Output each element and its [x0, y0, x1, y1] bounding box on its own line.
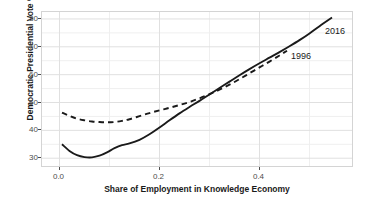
y-axis-tick-labels: 304050607080	[5, 0, 38, 201]
data-series-lines	[62, 18, 332, 158]
y-tick-mark	[38, 129, 41, 130]
y-tick-mark	[38, 46, 41, 47]
x-axis-title: Share of Employment in Knowledge Economy	[41, 184, 353, 194]
y-tick-mark	[38, 157, 41, 158]
y-tick-mark	[38, 18, 41, 19]
x-tick-label-0.2: 0.2	[139, 172, 179, 181]
series-line-2016	[62, 18, 332, 158]
y-tick-mark	[38, 102, 41, 103]
y-tick-label-80: 80	[8, 13, 38, 22]
y-tick-label-60: 60	[8, 69, 38, 78]
x-tick-label-0.4: 0.4	[239, 172, 279, 181]
y-tick-mark	[38, 74, 41, 75]
x-tick-mark	[159, 167, 160, 170]
y-tick-label-50: 50	[8, 97, 38, 106]
plot-area-svg	[42, 12, 352, 166]
y-tick-label-40: 40	[8, 125, 38, 134]
series-annotation-1996: 1996	[291, 51, 311, 61]
chart-figure: Democratic Presidential Vote % 304050607…	[0, 0, 365, 201]
x-tick-mark	[259, 167, 260, 170]
series-line-1996	[62, 51, 287, 123]
y-tick-label-70: 70	[8, 41, 38, 50]
series-annotation-2016: 2016	[325, 26, 345, 36]
x-tick-mark	[59, 167, 60, 170]
plot-panel	[41, 11, 353, 167]
x-tick-label-0.0: 0.0	[39, 172, 79, 181]
y-tick-label-30: 30	[8, 153, 38, 162]
